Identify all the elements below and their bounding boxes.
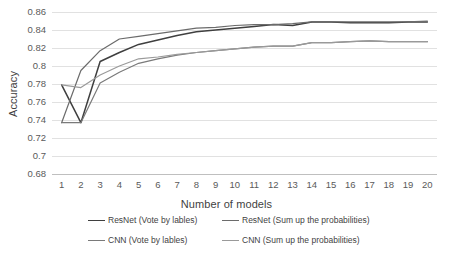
- legend-line-icon: [88, 240, 105, 241]
- legend-item[interactable]: ResNet (Vote by lables): [88, 216, 197, 225]
- legend-item[interactable]: CNN (Sum up the probabilities): [222, 236, 360, 245]
- legend-line-icon: [222, 240, 239, 241]
- legend-item-label: ResNet (Sum up the probabilities): [242, 216, 370, 225]
- series-lines: [62, 21, 428, 123]
- gridlines: [52, 12, 437, 174]
- legend-item-label: CNN (Sum up the probabilities): [242, 236, 360, 245]
- legend-item[interactable]: ResNet (Sum up the probabilities): [222, 216, 370, 225]
- chart-legend: ResNet (Vote by lables)ResNet (Sum up th…: [0, 216, 453, 262]
- series-line: [62, 21, 428, 123]
- legend-line-icon: [222, 220, 239, 221]
- series-line: [62, 22, 428, 123]
- legend-item-label: CNN (Vote by lables): [108, 236, 187, 245]
- legend-item[interactable]: CNN (Vote by lables): [88, 236, 187, 245]
- legend-line-icon: [88, 220, 105, 221]
- accuracy-vs-number-of-models-chart: Accuracy Number of models 0.680.70.720.7…: [0, 0, 453, 271]
- legend-item-label: ResNet (Vote by lables): [108, 216, 197, 225]
